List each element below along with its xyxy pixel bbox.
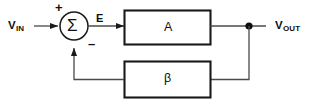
feedback-tap-wire	[211, 26, 249, 80]
feedback-block-label: β	[164, 72, 171, 85]
block-diagram-canvas: VIN + Σ – E A β VOUT	[0, 0, 311, 107]
diagram-vector-layer	[0, 0, 311, 107]
summing-symbol-label: Σ	[67, 17, 78, 34]
minus-sign-label: –	[88, 37, 95, 50]
feedback-return-wire	[74, 48, 124, 80]
error-signal-label: E	[96, 13, 103, 24]
plus-sign-label: +	[55, 1, 63, 14]
output-signal-wire	[211, 22, 267, 29]
input-signal-label: VIN	[8, 20, 24, 32]
output-signal-label: VOUT	[275, 20, 300, 32]
forward-gain-block-label: A	[164, 21, 172, 34]
